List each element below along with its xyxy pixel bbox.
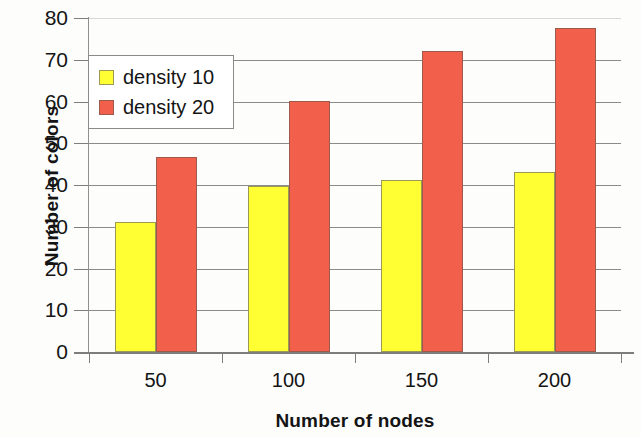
y-tick-label: 30 [10, 216, 68, 237]
x-tick-mark [89, 352, 90, 363]
x-axis-line [74, 352, 634, 354]
bar [422, 51, 463, 352]
y-tick-label: 10 [10, 299, 68, 320]
y-tick-label: 80 [10, 7, 68, 28]
x-tick-label: 200 [500, 370, 610, 390]
bar [289, 101, 330, 352]
bar-chart-figure: Number of colors Number of nodes 0102030… [0, 0, 641, 437]
legend-item-label: density 10 [123, 67, 214, 87]
y-tick-label: 20 [10, 258, 68, 279]
legend-item-label: density 20 [123, 97, 214, 117]
gridline [89, 143, 621, 144]
y-tick-label: 40 [10, 174, 68, 195]
y-tick-label: 0 [10, 341, 68, 362]
gridline [89, 18, 621, 19]
x-tick-mark [355, 352, 356, 363]
legend-item[interactable]: density 10 [99, 62, 233, 92]
bar [381, 180, 422, 352]
bar [514, 172, 555, 352]
y-tick-mark [74, 18, 88, 19]
x-tick-mark [222, 352, 223, 363]
y-tick-mark [74, 227, 88, 228]
x-axis-title: Number of nodes [89, 410, 621, 432]
y-tick-mark [74, 102, 88, 103]
y-tick-mark [74, 143, 88, 144]
bar [115, 222, 156, 352]
legend-color-swatch [99, 100, 114, 115]
bar [248, 186, 289, 352]
y-tick-label: 60 [10, 91, 68, 112]
y-tick-label: 70 [10, 49, 68, 70]
x-tick-label: 100 [234, 370, 344, 390]
bar [555, 28, 596, 352]
y-tick-mark [74, 185, 88, 186]
x-tick-label: 50 [101, 370, 211, 390]
x-tick-mark [621, 352, 622, 363]
y-tick-mark [74, 352, 88, 353]
legend-item[interactable]: density 20 [99, 92, 233, 122]
x-tick-label: 150 [367, 370, 477, 390]
y-tick-mark [74, 310, 88, 311]
bar [156, 157, 197, 352]
chart-legend: density 10density 20 [88, 55, 234, 129]
y-tick-mark [74, 60, 88, 61]
y-tick-mark [74, 269, 88, 270]
y-tick-label: 50 [10, 132, 68, 153]
x-tick-mark [488, 352, 489, 363]
legend-color-swatch [99, 70, 114, 85]
